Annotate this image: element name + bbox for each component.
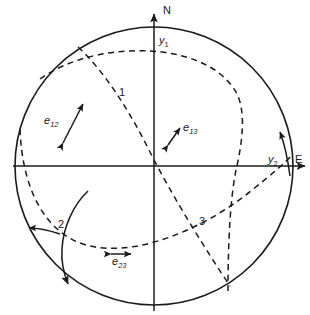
stereonet-figure: N E y1 y2 1 2 3 e12 e13 e23 (0, 0, 310, 315)
great-circle-2 (20, 129, 291, 248)
e13-vector-arrow (168, 128, 180, 145)
y1-subscript: 1 (165, 40, 169, 49)
e13-subscript: 13 (189, 127, 198, 136)
e23-subscript: 23 (117, 261, 127, 270)
north-axis-label: N (163, 4, 171, 16)
intersection-label-3: 3 (199, 215, 205, 227)
e12-label: e12 (44, 114, 59, 129)
intersection-label-1: 1 (119, 86, 125, 98)
east-axis-label: E (295, 153, 302, 165)
slip-arc-left (62, 191, 88, 284)
e13-label: e13 (183, 121, 198, 136)
y1-axis-label: y1 (158, 34, 169, 49)
great-circle-3 (40, 51, 242, 291)
intersection-label-2: 2 (58, 218, 64, 230)
e12-subscript: 12 (50, 120, 59, 129)
e23-label: e23 (112, 255, 127, 270)
slip-arc-right (280, 132, 290, 176)
y2-subscript: 2 (274, 159, 278, 168)
slip-arrow-left-tip (29, 228, 60, 234)
e12-vector-arrow (63, 104, 83, 143)
stereonet-canvas: N E y1 y2 1 2 3 e12 e13 e23 (0, 0, 310, 315)
